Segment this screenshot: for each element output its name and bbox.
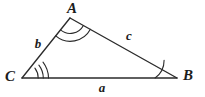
side-labels: a b c [35, 28, 132, 95]
angle-marks-vertex-c [35, 62, 49, 78]
triangle-diagram-svg: A B C a b c [0, 0, 205, 97]
angle-marks-vertex-b [155, 60, 164, 78]
side-label-b: b [35, 36, 42, 51]
angle-marks-vertex-a [56, 26, 91, 42]
vertex-label-a: A [66, 0, 77, 16]
side-label-c: c [126, 28, 132, 43]
angle-arc-c-3 [43, 62, 49, 78]
vertex-label-c: C [5, 68, 16, 84]
angle-arc-b-1 [155, 60, 164, 78]
edge-c-side-AB [70, 18, 177, 78]
angle-arc-c-1 [35, 68, 38, 78]
edge-b-side-CA [22, 18, 70, 78]
triangle-edges [22, 18, 177, 78]
angle-arc-c-2 [39, 65, 43, 78]
angle-arc-a-1 [61, 26, 84, 34]
angle-arc-a-2 [56, 29, 91, 41]
vertex-label-b: B [182, 67, 193, 83]
triangle-figure: A B C a b c [0, 0, 205, 97]
side-label-a: a [99, 80, 106, 95]
